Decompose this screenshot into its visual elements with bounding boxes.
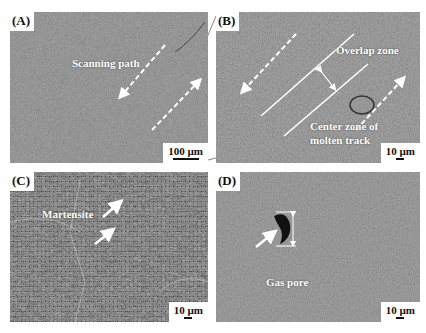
panel-b-label: (B): [216, 12, 239, 31]
panel-c-label: (C): [10, 172, 34, 191]
scanning-path-label: Scanning path: [72, 57, 140, 69]
panel-c-micrograph: (C) Martensite 10 µm: [10, 172, 208, 322]
panel-a-micrograph: (A) Scanning path 100 µm: [10, 12, 208, 163]
panel-a-label: (A): [10, 12, 34, 31]
overlap-zone-label: Overlap zone: [336, 44, 399, 56]
center-zone-label-line2: molten track: [310, 134, 370, 146]
scale-bar-text: 10 µm: [174, 304, 203, 316]
panel-a-scale-bar: 100 µm: [163, 143, 208, 163]
center-zone-label-line1: Center zone of: [310, 120, 378, 132]
gas-pore-label: Gas pore: [266, 276, 308, 288]
panel-d-micrograph: (D) Gas pore 10 µm: [216, 172, 420, 322]
panel-b-micrograph: (B) Overlap zone Center zone of molten t…: [216, 12, 420, 163]
scale-bar-text: 10 µm: [386, 304, 415, 316]
panel-d-label: (D): [216, 172, 240, 191]
panel-d-scale-bar: 10 µm: [381, 302, 420, 322]
martensite-label: Martensite: [42, 208, 93, 220]
panel-b-scale-bar: 10 µm: [381, 143, 420, 163]
scale-bar-text: 100 µm: [168, 145, 203, 157]
scale-bar-text: 10 µm: [386, 145, 415, 157]
panel-c-scale-bar: 10 µm: [169, 302, 208, 322]
